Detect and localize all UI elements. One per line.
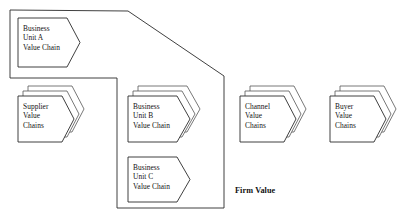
channel-value-chains-label: ChannelValueChains — [245, 102, 270, 130]
business-unit-a-label: BusinessUnit AValue Chain — [23, 24, 60, 52]
diagram-canvas: BusinessUnit AValue ChainSupplierValueCh… — [0, 0, 417, 223]
channel-value-chains-label-line: Chains — [245, 121, 270, 130]
business-unit-a-label-line: Business — [23, 24, 60, 33]
business-unit-b-label-line: Value Chain — [133, 121, 170, 130]
business-unit-c-label-line: Unit C — [133, 172, 170, 181]
firm-value-label: Firm Value — [235, 186, 275, 195]
buyer-value-chains-label-line: Value — [335, 111, 356, 120]
business-unit-b-label: BusinessUnit BValue Chain — [133, 102, 170, 130]
supplier-value-chains-label-line: Value — [23, 111, 48, 120]
channel-value-chains-label-line: Value — [245, 111, 270, 120]
supplier-value-chains-label-line: Supplier — [23, 102, 48, 111]
buyer-value-chains-label-line: Buyer — [335, 102, 356, 111]
channel-value-chains-label-line: Channel — [245, 102, 270, 111]
business-unit-c-label-line: Business — [133, 163, 170, 172]
business-unit-b-label-line: Unit B — [133, 111, 170, 120]
business-unit-c-label: BusinessUnit CValue Chain — [133, 163, 170, 191]
business-unit-a-label-line: Unit A — [23, 33, 60, 42]
business-unit-a-label-line: Value Chain — [23, 43, 60, 52]
supplier-value-chains-label: SupplierValueChains — [23, 102, 48, 130]
business-unit-c-label-line: Value Chain — [133, 182, 170, 191]
supplier-value-chains-label-line: Chains — [23, 121, 48, 130]
buyer-value-chains-label: BuyerValueChains — [335, 102, 356, 130]
buyer-value-chains-label-line: Chains — [335, 121, 356, 130]
business-unit-b-label-line: Business — [133, 102, 170, 111]
